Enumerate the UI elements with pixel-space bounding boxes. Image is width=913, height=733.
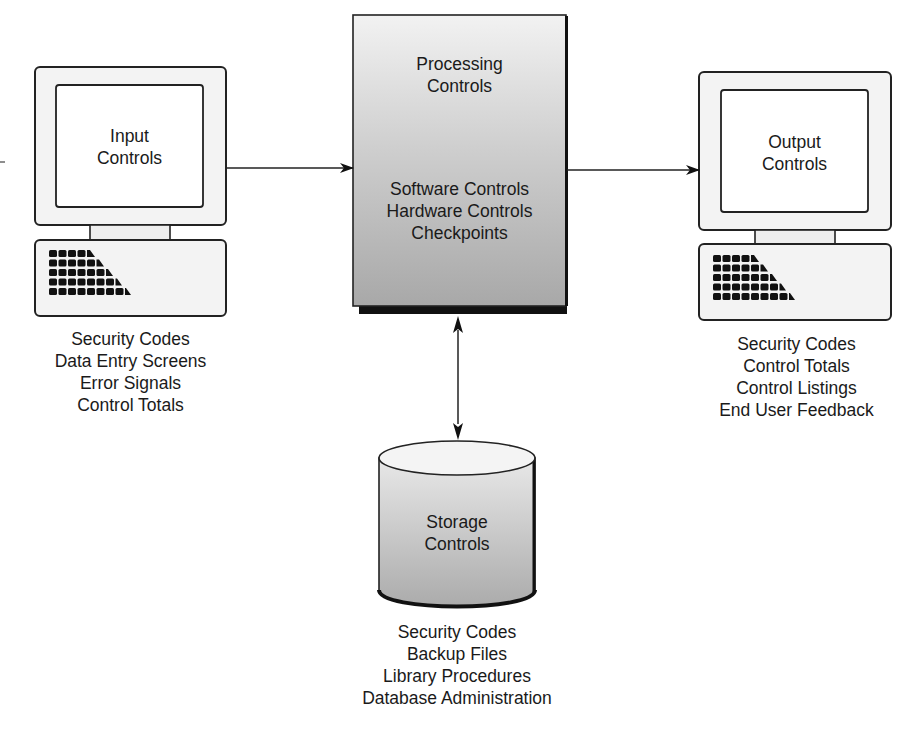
output-controls-list: Security Codes Control Totals Control Li…	[680, 333, 913, 421]
list-item: Control Totals	[680, 355, 913, 377]
title-line: Controls	[721, 153, 868, 175]
list-item: Security Codes	[10, 328, 251, 350]
processing-controls-title: Processing Controls	[353, 53, 566, 97]
title-line: Controls	[353, 75, 566, 97]
list-item: Software Controls	[353, 178, 566, 200]
list-item: Error Signals	[10, 372, 251, 394]
list-item: Checkpoints	[353, 222, 566, 244]
list-item: Library Procedures	[347, 665, 567, 687]
list-item: Hardware Controls	[353, 200, 566, 222]
list-item: Database Administration	[347, 687, 567, 709]
list-item: Control Totals	[10, 394, 251, 416]
list-item: Backup Files	[347, 643, 567, 665]
title-line: Input	[56, 125, 203, 147]
input-controls-title: Input Controls	[56, 125, 203, 169]
output-terminal-icon	[699, 72, 891, 320]
title-line: Storage	[379, 511, 535, 533]
title-line: Controls	[56, 147, 203, 169]
storage-controls-title: Storage Controls	[379, 511, 535, 555]
arrow-processing-storage-bidirectional	[453, 316, 463, 440]
title-line: Output	[721, 131, 868, 153]
title-line: Controls	[379, 533, 535, 555]
title-line: Processing	[353, 53, 566, 75]
input-controls-list: Security Codes Data Entry Screens Error …	[10, 328, 251, 416]
output-controls-title: Output Controls	[721, 131, 868, 175]
list-item: Data Entry Screens	[10, 350, 251, 372]
storage-controls-list: Security Codes Backup Files Library Proc…	[347, 621, 567, 709]
input-terminal-icon	[35, 67, 226, 316]
list-item: Control Listings	[680, 377, 913, 399]
list-item: Security Codes	[680, 333, 913, 355]
list-item: Security Codes	[347, 621, 567, 643]
processing-controls-list: Software Controls Hardware Controls Chec…	[353, 178, 566, 244]
list-item: End User Feedback	[680, 399, 913, 421]
